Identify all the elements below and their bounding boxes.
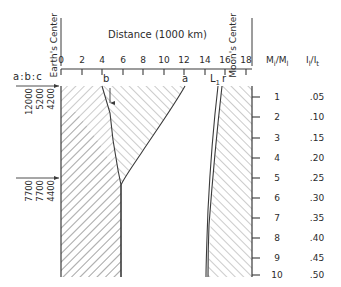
curve-label-L1-sub: 1 [216,79,220,87]
row-ratio-10: .50 [304,271,330,280]
row-index-2: 2 [266,113,288,122]
row-index-9: 9 [266,254,288,263]
row-ratio-2: .10 [304,113,330,122]
row-index-5: 5 [266,174,288,183]
axis-title: Distance (1000 km) [108,30,207,40]
xtick-18: 18 [236,56,256,65]
row-tick-marks [252,97,260,275]
xtick-10: 10 [154,56,174,65]
column-header-mass: Mi/Ml [266,56,288,68]
row-ratio-6: .30 [304,194,330,203]
annotation-mid-value-a: 7700 [25,180,34,202]
annotation-mid-value-b: 7700 [36,180,45,202]
xtick-6: 6 [113,56,133,65]
annotation-mid-value-c: 4400 [47,180,56,202]
xtick-0: 0 [51,56,71,65]
row-index-10: 10 [266,271,288,280]
row-index-1: 1 [266,93,288,102]
curve-label-a: a [182,74,188,84]
xtick-16: 16 [215,56,235,65]
annotation-top-value-b: 5200 [36,88,45,110]
row-index-7: 7 [266,214,288,223]
annotation-top-value-a: 12000 [25,88,34,115]
moons-center-label: Moon's Center [229,13,238,78]
xtick-14: 14 [195,56,215,65]
row-ratio-5: .25 [304,174,330,183]
row-index-4: 4 [266,154,288,163]
column-header-inertia: Il/It [306,56,319,68]
row-ratio-9: .45 [304,254,330,263]
row-ratio-7: .35 [304,214,330,223]
row-index-8: 8 [266,234,288,243]
row-ratio-3: .15 [304,134,330,143]
row-ratio-8: .40 [304,234,330,243]
xtick-8: 8 [133,56,153,65]
row-ratio-4: .20 [304,154,330,163]
curve-label-b: b [103,74,109,84]
curve-label-r: r [222,74,226,84]
xtick-12: 12 [174,56,194,65]
row-ratio-1: .05 [304,93,330,102]
xtick-4: 4 [92,56,112,65]
row-index-6: 6 [266,194,288,203]
ratio-label: a:b:c [13,72,43,82]
xtick-2: 2 [72,56,92,65]
annotation-top-value-c: 4200 [47,88,56,110]
row-index-3: 3 [266,134,288,143]
curve-label-L1: L1 [210,74,220,87]
earths-center-label: Earth's Center [50,13,59,77]
